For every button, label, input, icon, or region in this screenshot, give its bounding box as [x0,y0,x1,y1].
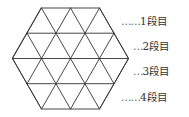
row-label-2: …2段目 [133,40,169,52]
leader-dots: …… [121,91,140,103]
leader-dots: …… [121,15,140,27]
row-label-text: 4段目 [140,91,167,103]
row-label-1: ……1段目 [121,15,167,27]
row-label-text: 2段目 [143,40,170,52]
row-label-3: …3段目 [133,65,169,77]
leader-dots: … [133,40,143,52]
row-label-text: 3段目 [143,65,170,77]
leader-dots: … [133,65,143,77]
row-label-text: 1段目 [140,15,167,27]
row-label-4: ……4段目 [121,91,167,103]
